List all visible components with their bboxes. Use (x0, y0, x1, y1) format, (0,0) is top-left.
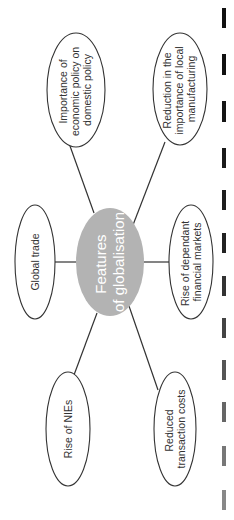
economic-policy-line-3: domestic policy (81, 53, 93, 126)
edge-mark (222, 402, 226, 422)
connector-economic-policy (70, 146, 94, 213)
edge-mark (222, 190, 226, 210)
svg-text:Reduction in the importa: Reduction in the importance of local man… (161, 43, 197, 134)
edge-mark (222, 101, 226, 122)
local-manufacturing-line-2: importance of local (173, 46, 185, 134)
edge-mark (222, 8, 226, 28)
nies-label: Rise of NIEs (62, 400, 74, 458)
financial-markets-line-1: Rise of dependant (179, 221, 191, 306)
center-label-line-2: of globalisation (110, 212, 127, 312)
connector-transaction-costs (129, 306, 158, 390)
local-manufacturing-line-1: Reduction in the (161, 52, 173, 128)
globalisation-mind-map: Features of globalisation Importance of … (0, 0, 234, 520)
edge-mark (222, 148, 226, 168)
edge-mark (222, 233, 226, 253)
transaction-costs-line-2: transaction costs (175, 390, 187, 469)
edge-mark (222, 360, 226, 380)
edge-mark (222, 490, 226, 510)
edge-mark (222, 318, 226, 338)
svg-text:Global trade: Global trade (29, 233, 41, 290)
global-trade-label: Global trade (29, 233, 41, 290)
edge-mark (222, 446, 226, 466)
economic-policy-line-1: Importance of (57, 59, 69, 123)
svg-text:Rise of NIEs: Rise of NIEs (62, 400, 74, 458)
edge-mark (222, 54, 226, 75)
edge-mark (222, 276, 226, 296)
connector-nies (74, 313, 97, 375)
connector-local-manufacturing (133, 142, 165, 225)
transaction-costs-line-1: Reduced (163, 409, 175, 451)
financial-markets-line-2: financial markets (191, 223, 203, 302)
svg-text:Importance of economic p: Importance of economic policy on domesti… (57, 44, 93, 136)
local-manufacturing-line-3: manufacturing (185, 56, 197, 123)
center-label-line-1: Features (92, 234, 109, 293)
svg-text:Rise of dependant financ: Rise of dependant financial markets (179, 218, 203, 306)
economic-policy-line-2: economic policy on (69, 47, 81, 136)
